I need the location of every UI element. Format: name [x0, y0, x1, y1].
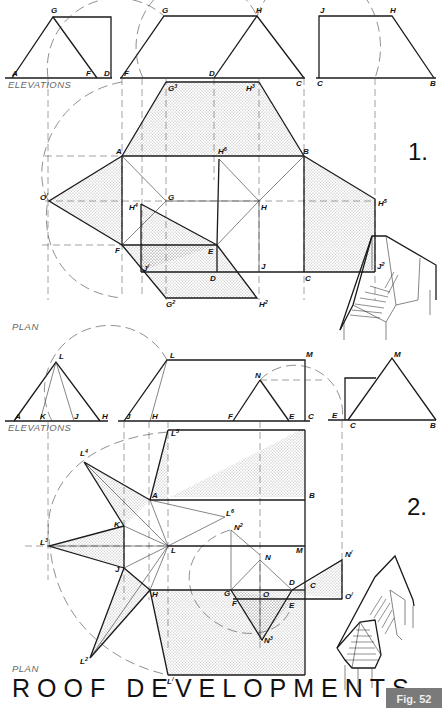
- label-d: D: [104, 69, 110, 78]
- label-c-right-2: C: [350, 421, 356, 430]
- label-g-plan-2: G: [224, 589, 230, 598]
- label-n2: N2: [234, 522, 243, 532]
- label-k-2: K: [40, 412, 47, 421]
- label-f-plan: F: [115, 246, 121, 255]
- label-l-mid: L: [170, 351, 175, 360]
- label-l3: L3: [40, 537, 48, 547]
- label-f-mid-2: F: [228, 412, 234, 421]
- label-c-plan-2: C: [310, 581, 316, 590]
- label-j-mid: J: [126, 412, 131, 421]
- page-title: ROOF DEVELOPMENTS: [12, 674, 416, 703]
- figure-number-1: 1.: [408, 138, 428, 165]
- label-j-right: J: [320, 6, 325, 15]
- label-n-plan: N: [265, 553, 271, 562]
- label-b-right: B: [430, 79, 436, 88]
- label-j-plan: J: [261, 262, 266, 271]
- label-d-plan: D: [210, 274, 216, 283]
- label-o-plan: O: [263, 590, 270, 599]
- label-c-mid: C: [296, 79, 302, 88]
- label-n-mid: N: [255, 371, 261, 380]
- face-g3-h3: [122, 83, 304, 156]
- label-c-right: C: [317, 79, 323, 88]
- label-e-mid-2: E: [289, 412, 295, 421]
- label-h4: H4: [129, 202, 138, 212]
- label-j2: J2: [377, 261, 385, 271]
- label-d-plan-2: D: [289, 578, 295, 587]
- label-l4: L4: [80, 448, 88, 458]
- label-a-plan-2: A: [151, 491, 158, 500]
- label-h-right: H: [390, 6, 396, 15]
- label-l2: L2: [80, 656, 88, 666]
- label-l5: L5: [171, 428, 180, 438]
- label-a: A: [11, 69, 18, 78]
- label-n1: N/: [345, 549, 354, 559]
- elevations-caption-2: ELEVATIONS: [8, 422, 72, 433]
- label-h-plan: H: [261, 203, 267, 212]
- label-h5: H5: [378, 198, 388, 208]
- label-l: L: [59, 352, 64, 361]
- elevation-2a: [14, 362, 100, 421]
- label-l-plan: L: [171, 546, 176, 555]
- label-e-plan: E: [208, 247, 214, 256]
- label-f-mid: F: [124, 69, 130, 78]
- label-b-plan-2: B: [309, 491, 315, 500]
- label-h-2: H: [102, 412, 108, 421]
- label-e-right-2: E: [332, 411, 338, 420]
- figure-number-2: 2.: [407, 493, 427, 520]
- label-g-plan: G: [168, 193, 174, 202]
- label-d-mid: D: [209, 69, 215, 78]
- figure-1: G A F D G F D H C J H C B ELEVATIONS G3 …: [5, 0, 436, 340]
- label-g: G: [51, 6, 57, 15]
- face-o1: [49, 156, 122, 245]
- label-h2: H2: [259, 299, 268, 309]
- label-j-plan-2: J: [115, 565, 120, 574]
- face-h5: [304, 156, 375, 272]
- label-b-right-2: B: [430, 421, 436, 430]
- label-o1-2: O/: [345, 591, 354, 601]
- elevation-2c: [345, 358, 436, 420]
- label-j-2: J: [74, 412, 79, 421]
- label-a-plan: A: [115, 147, 122, 156]
- figure-label-badge: Fig. 52: [386, 688, 442, 708]
- label-g-mid: G: [162, 6, 168, 15]
- elevations-caption-1: ELEVATIONS: [8, 79, 72, 90]
- label-m-plan: M: [296, 546, 303, 555]
- label-h-plan-2: H: [152, 590, 158, 599]
- label-c-plan: C: [305, 274, 311, 283]
- plan-caption-1: PLAN: [12, 321, 39, 332]
- label-c-mid-2: C: [308, 412, 314, 421]
- label-a-2: A: [14, 412, 21, 421]
- figure-2: L A K J H L J H M N F E C E C M B ELEVAT…: [5, 325, 436, 690]
- isometric-sketch-2: [337, 556, 414, 690]
- label-e-plan-2: E: [289, 601, 295, 610]
- label-b-plan: B: [303, 147, 309, 156]
- label-g2: G2: [166, 299, 175, 309]
- label-h-mid-2: H: [152, 412, 158, 421]
- label-h-mid: H: [256, 6, 262, 15]
- label-m-mid: M: [306, 350, 313, 359]
- plan-caption-2: PLAN: [12, 663, 39, 674]
- elevation-1c: [319, 16, 434, 78]
- label-m-right: M: [394, 350, 401, 359]
- roof-developments-drawing: G A F D G F D H C J H C B ELEVATIONS G3 …: [0, 0, 445, 708]
- label-l6: L6: [226, 508, 235, 518]
